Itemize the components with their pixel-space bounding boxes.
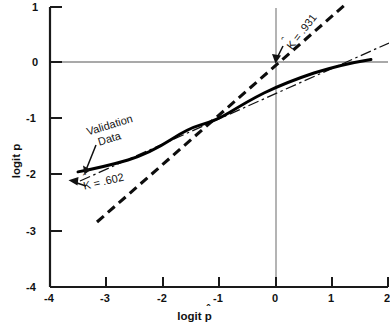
x-tick-label-m2: -2 — [157, 292, 167, 304]
series-line-khat-931 — [97, 3, 347, 222]
y-tick-label-m1: -1 — [26, 112, 36, 124]
y-tick-label-m4: -4 — [26, 281, 36, 293]
y-axis-title: logit p — [10, 131, 22, 191]
x-axis-ticks — [50, 277, 388, 287]
y-tick-label-1: 1 — [32, 1, 38, 13]
y-tick-label-m2: -2 — [26, 168, 36, 180]
x-tick-label-0: 0 — [272, 292, 278, 304]
y-tick-label-m3: -3 — [26, 225, 36, 237]
circumflex-accent-icon: ˆ — [206, 303, 210, 314]
x-tick-label-1: 1 — [328, 292, 334, 304]
p-hat-symbol: ˆp — [205, 310, 212, 322]
khat-931-arrow — [272, 46, 283, 64]
x-tick-label-m3: -3 — [100, 292, 110, 304]
x-axis-title: logit ˆp — [0, 310, 389, 322]
y-axis-ticks — [50, 7, 62, 287]
x-tick-label-m1: -1 — [213, 292, 223, 304]
y-tick-label-0: 0 — [32, 56, 38, 68]
x-tick-label-m4: -4 — [44, 292, 54, 304]
x-axis-title-prefix: logit — [177, 310, 204, 322]
x-tick-label-2: 2 — [384, 292, 390, 304]
